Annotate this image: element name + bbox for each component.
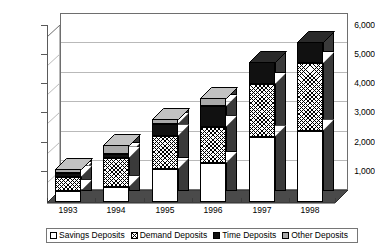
bar-1994-savings-deposits[interactable] [103,187,129,202]
bar-1994[interactable] [103,0,129,250]
bar-1997-demand-deposits[interactable] [249,84,275,137]
y-tick-4000 [41,83,47,84]
bar-1997-top-cap [249,51,288,62]
y-axis-label-5000: 5,000 [337,50,375,59]
bar-1994-demand-deposits[interactable] [103,158,129,187]
bar-1998-demand-deposits-side [323,52,334,119]
bar-1998-demand-deposits[interactable] [297,63,323,130]
bar-1995-demand-deposits[interactable] [152,136,178,169]
y-tick-6000 [41,25,47,26]
bar-1993-top-cap [55,158,94,169]
x-axis-line [47,202,335,203]
bar-1993-savings-deposits[interactable] [55,191,81,202]
bar-1996-savings-deposits[interactable] [200,163,226,202]
bar-1995[interactable] [152,0,178,250]
y-tick-3000 [41,112,47,113]
bar-1995-savings-deposits[interactable] [152,169,178,202]
bar-1995-top-cap [152,108,191,119]
bar-1997[interactable] [249,0,275,250]
y-axis-label-2000: 2,000 [337,138,375,147]
bar-1997-savings-deposits[interactable] [249,137,275,202]
stacked-column-chart: 6,000 5,000 4,000 3,000 2,000 1,000 1993… [0,0,375,250]
bar-1998[interactable] [297,0,323,250]
y-axis-line [47,25,48,202]
bar-1997-savings-deposits-side [275,126,286,191]
bar-1994-time-deposits[interactable] [103,154,129,158]
x-tick-1993 [47,198,48,203]
bar-1998-top-cap [297,31,336,42]
bar-1996-demand-deposits[interactable] [200,127,226,163]
y-axis-label-6000: 6,000 [337,21,375,30]
gray-swatch [282,232,289,239]
y-axis-label-4000: 4,000 [337,79,375,88]
bar-1998-savings-deposits-side [323,120,334,191]
y-tick-1000 [41,171,47,172]
y-tick-5000 [41,54,47,55]
bar-1997-time-deposits[interactable] [249,62,275,84]
crosshatch-swatch [131,232,138,239]
x-tick-1995 [144,198,145,203]
x-tick-end [335,198,336,203]
x-tick-1997 [241,198,242,203]
bar-1993[interactable] [55,0,81,250]
x-tick-1998 [289,198,290,203]
bar-1996[interactable] [200,0,226,250]
bar-1998-time-deposits[interactable] [297,42,323,63]
bar-1993-time-deposits[interactable] [55,173,81,177]
y-tick-2000 [41,142,47,143]
bar-1994-top-cap [103,134,142,145]
y-axis-label-1000: 1,000 [337,167,375,176]
bar-1996-time-deposits[interactable] [200,106,226,127]
bar-1996-top-cap [200,87,239,98]
bar-1995-time-deposits[interactable] [152,124,178,136]
bar-1998-savings-deposits[interactable] [297,131,323,202]
x-tick-1994 [95,198,96,203]
bar-1993-demand-deposits[interactable] [55,177,81,191]
x-tick-1996 [192,198,193,203]
y-axis-label-3000: 3,000 [337,108,375,117]
